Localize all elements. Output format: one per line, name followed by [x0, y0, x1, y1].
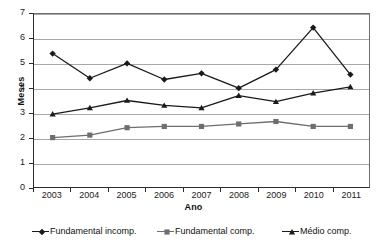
data-point-marker [87, 133, 92, 138]
x-axis-tick-mark [183, 188, 184, 192]
y-axis-tick-label: 6 [3, 32, 25, 42]
line-chart: Meses 01234567 2003200420052006200720082… [0, 0, 387, 243]
data-point-marker [236, 121, 241, 126]
series-layer [34, 14, 369, 187]
legend-swatch-square-icon [157, 226, 174, 236]
data-point-marker [348, 124, 353, 129]
x-axis-tick-mark [258, 188, 259, 192]
data-point-marker [38, 229, 44, 235]
data-point-marker [273, 119, 278, 124]
y-axis-tick-label: 5 [3, 57, 25, 67]
chart-title-clipped [0, 0, 387, 7]
y-axis-tick-label: 1 [3, 157, 25, 167]
y-axis-tick-label: 4 [3, 82, 25, 92]
data-point-marker [162, 124, 167, 129]
legend-marker-icon [38, 228, 46, 236]
legend-marker-icon [163, 228, 171, 236]
legend-item[interactable]: Fundamental incomp. [32, 226, 137, 236]
plot-area [33, 13, 370, 188]
y-axis-tick-label: 2 [3, 132, 25, 142]
legend-label: Fundamental incomp. [50, 226, 137, 236]
data-point-marker [311, 124, 316, 129]
legend-item[interactable]: Fundamental comp. [157, 226, 255, 236]
data-point-marker [288, 229, 294, 235]
x-axis-tick-mark [33, 188, 34, 192]
data-point-marker [50, 135, 55, 140]
y-axis-tick-label: 3 [3, 107, 25, 117]
series-line [53, 28, 351, 89]
data-point-marker [124, 125, 129, 130]
y-axis-tick-label: 0 [3, 182, 25, 192]
legend-swatch-diamond-icon [32, 226, 49, 236]
legend-label: Médio comp. [300, 226, 352, 236]
data-point-marker [236, 92, 242, 97]
x-axis-tick-mark [145, 188, 146, 192]
data-point-marker [161, 76, 167, 82]
x-axis-tick-mark [333, 188, 334, 192]
legend-item[interactable]: Médio comp. [282, 226, 352, 236]
data-point-marker [199, 124, 204, 129]
x-axis-tick-mark [220, 188, 221, 192]
series-2 [50, 119, 353, 140]
x-axis-label: Ano [0, 202, 387, 212]
y-axis-tick-label: 7 [3, 7, 25, 17]
data-point-marker [124, 60, 130, 66]
x-axis-tick-mark [70, 188, 71, 192]
legend-label: Fundamental comp. [175, 226, 255, 236]
legend-marker-icon [288, 228, 296, 236]
data-point-marker [198, 70, 204, 76]
series-1 [49, 24, 353, 91]
chart-legend: Fundamental incomp.Fundamental comp.Médi… [0, 222, 387, 240]
data-point-marker [347, 84, 353, 89]
x-axis-tick-mark [108, 188, 109, 192]
x-axis-tick-mark [295, 188, 296, 192]
x-axis-tick-label: 2011 [329, 190, 373, 200]
data-point-marker [236, 85, 242, 91]
series-3 [50, 84, 354, 117]
data-point-marker [164, 229, 169, 234]
legend-swatch-triangle-icon [282, 226, 299, 236]
